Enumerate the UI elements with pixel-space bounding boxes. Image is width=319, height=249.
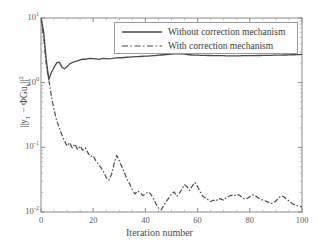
legend-swatch-solid	[121, 26, 163, 38]
xtick-label-40: 40	[133, 216, 157, 225]
legend-swatch-dashdot	[121, 40, 163, 52]
legend-label-without-correction: Without correction mechanism	[168, 27, 285, 37]
ytick-label-10e-2: 10-2	[19, 207, 39, 216]
y-axis-title: ||yT − ΦGuk||2	[20, 76, 30, 128]
xtick-label-100: 100	[290, 216, 314, 225]
xtick-label-0: 0	[29, 216, 53, 225]
x-axis-title: Iteration number	[0, 228, 319, 238]
legend-entry-without-correction: Without correction mechanism	[115, 25, 297, 39]
xtick-label-60: 60	[186, 216, 210, 225]
xtick-label-20: 20	[81, 216, 105, 225]
legend-entry-with-correction: With correction mechanism	[115, 39, 297, 53]
legend-label-with-correction: With correction mechanism	[168, 41, 273, 51]
y-axis-title-wrapper: ||yT − ΦGuk||2	[13, 32, 31, 172]
legend: Without correction mechanism With correc…	[114, 22, 298, 54]
xtick-label-80: 80	[238, 216, 262, 225]
figure-semilogy-convergence: 101 100 10-1 10-2 0 20 40 60 80 100 ||yT…	[0, 0, 319, 249]
ytick-label-10e1: 101	[19, 13, 39, 22]
